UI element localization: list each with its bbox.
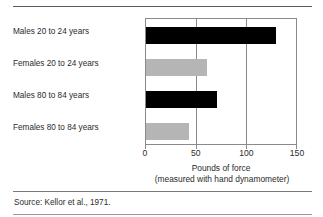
category-label-females-80-84: Females 80 to 84 years <box>13 123 140 133</box>
bar-females-20-24 <box>146 59 207 76</box>
x-tick-label-150: 150 <box>290 148 304 158</box>
bar-males-20-24 <box>146 27 276 44</box>
category-label-males-20-24: Males 20 to 24 years <box>13 27 140 37</box>
source-note: Source: Kellor et al., 1971. <box>14 197 111 208</box>
plot-area <box>145 18 297 145</box>
bar-females-80-84 <box>146 123 189 140</box>
x-tick-label-0: 0 <box>143 148 148 158</box>
category-label-column: Males 20 to 24 years Females 20 to 24 ye… <box>13 18 140 145</box>
x-axis-title: Pounds of force <box>145 163 297 173</box>
top-divider-rule <box>13 6 312 7</box>
source-divider-rule <box>13 191 312 192</box>
x-tick-label-100: 100 <box>239 148 253 158</box>
category-label-females-20-24: Females 20 to 24 years <box>13 59 140 69</box>
category-label-males-80-84: Males 80 to 84 years <box>13 91 140 101</box>
x-tick-label-50: 50 <box>191 148 201 158</box>
bottom-divider-rule <box>13 214 312 215</box>
figure-container: Males 20 to 24 years Females 20 to 24 ye… <box>0 0 323 217</box>
bar-males-80-84 <box>146 91 217 108</box>
x-axis-subtitle: (measured with hand dynamometer) <box>132 174 312 184</box>
